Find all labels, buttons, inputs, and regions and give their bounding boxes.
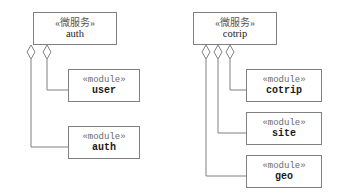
- module-node-auth[interactable]: «module» auth: [68, 126, 140, 159]
- node-name-label: site: [272, 128, 296, 139]
- service-node-cotrip[interactable]: «微服务» cotrip: [193, 12, 277, 45]
- stereotype-label: «微服务»: [215, 17, 255, 28]
- stereotype-label: «module»: [82, 75, 125, 85]
- module-node-user[interactable]: «module» user: [68, 69, 140, 102]
- node-name-label: cotrip: [223, 28, 248, 40]
- node-name-label: auth: [92, 142, 116, 153]
- node-name-label: geo: [275, 171, 293, 182]
- stereotype-label: «module»: [262, 118, 305, 128]
- stereotype-label: «微服务»: [55, 17, 95, 28]
- edge-auth-to-user: [43, 45, 68, 90]
- node-name-label: auth: [66, 28, 84, 40]
- stereotype-label: «module»: [262, 161, 305, 171]
- uml-diagram-canvas: «微服务» auth «module» user «module» auth «…: [0, 0, 340, 194]
- module-node-cotrip[interactable]: «module» cotrip: [246, 69, 322, 102]
- node-name-label: user: [92, 85, 116, 96]
- module-node-geo[interactable]: «module» geo: [246, 155, 322, 188]
- module-node-site[interactable]: «module» site: [246, 112, 322, 145]
- service-node-auth[interactable]: «微服务» auth: [33, 12, 117, 45]
- stereotype-label: «module»: [262, 75, 305, 85]
- stereotype-label: «module»: [82, 132, 125, 142]
- edge-cotrip-to-geo: [202, 45, 246, 176]
- node-name-label: cotrip: [266, 85, 302, 96]
- edge-cotrip-to-cotrip-module: [226, 45, 246, 90]
